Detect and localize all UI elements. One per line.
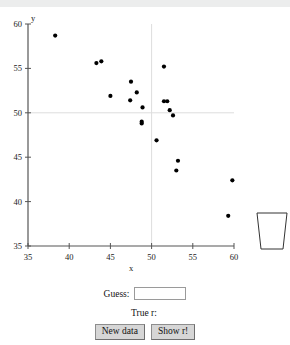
x-tick-label: 55 — [189, 252, 198, 262]
data-point[interactable] — [53, 33, 57, 37]
y-tick-label: 55 — [14, 63, 23, 73]
x-tick-label: 35 — [24, 252, 33, 262]
y-tick-label: 35 — [14, 241, 23, 251]
gridlines — [28, 24, 234, 246]
x-axis-title: x — [129, 263, 134, 273]
data-point[interactable] — [174, 168, 178, 172]
x-tick-label: 40 — [65, 252, 74, 262]
x-tick-label: 45 — [106, 252, 115, 262]
data-point[interactable] — [94, 61, 98, 65]
controls-panel[interactable]: Guess: True r: New data Show r! — [0, 283, 290, 345]
data-point[interactable] — [128, 98, 132, 102]
trash-bin[interactable] — [254, 209, 290, 251]
data-point[interactable] — [154, 138, 158, 142]
data-point[interactable] — [168, 108, 172, 112]
data-point[interactable] — [171, 113, 175, 117]
top-strip — [0, 0, 290, 7]
y-tick-label: 45 — [14, 152, 23, 162]
guess-row: Guess: — [0, 283, 290, 304]
data-point[interactable] — [135, 90, 139, 94]
data-point[interactable] — [165, 99, 169, 103]
data-point[interactable] — [140, 121, 144, 125]
button-row: New data Show r! — [0, 322, 290, 342]
scatter-plot[interactable]: 354045505560 354045505560 y x — [0, 7, 258, 277]
scatter-plot-svg[interactable]: 354045505560 354045505560 y x — [0, 7, 258, 277]
data-point[interactable] — [140, 105, 144, 109]
show-r-button[interactable]: Show r! — [151, 324, 195, 340]
data-point[interactable] — [99, 59, 103, 63]
true-r-row: True r: — [0, 304, 290, 322]
y-tick-label: 50 — [14, 108, 23, 118]
data-point[interactable] — [129, 80, 133, 84]
data-point[interactable] — [176, 159, 180, 163]
y-tick-label: 40 — [14, 197, 23, 207]
trash-bin-icon[interactable] — [254, 209, 290, 251]
new-data-button[interactable]: New data — [95, 324, 145, 340]
true-r-label: True r: — [131, 308, 157, 318]
x-tick-label: 50 — [147, 252, 156, 262]
guess-label: Guess: — [104, 289, 130, 299]
data-points[interactable] — [53, 33, 234, 217]
data-point[interactable] — [230, 178, 234, 182]
guess-input[interactable] — [134, 287, 186, 300]
data-point[interactable] — [162, 65, 166, 69]
x-tick-label: 60 — [230, 252, 239, 262]
data-point[interactable] — [226, 214, 230, 218]
y-tick-label: 60 — [14, 19, 23, 29]
y-axis-title: y — [31, 13, 36, 23]
data-point[interactable] — [108, 94, 112, 98]
